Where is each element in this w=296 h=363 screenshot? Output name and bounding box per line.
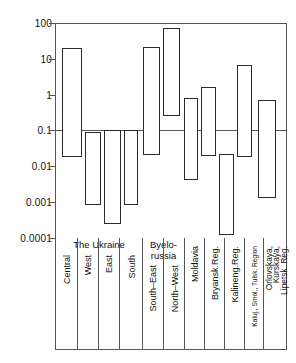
chart-root: 100 10 1 0.1 0.01 0.001 0.0001 The Ukrai… <box>0 0 296 363</box>
group-byelorussia: Byelo- russia South–East North–West <box>143 238 185 350</box>
bar-central[interactable] <box>62 48 82 157</box>
category-label-table: The Ukraine Central West East South Byel… <box>55 238 287 350</box>
bar-south[interactable] <box>124 130 138 205</box>
category-column-west[interactable]: West <box>78 238 99 350</box>
category-label-central: Central <box>62 255 72 284</box>
category-label-orlovskaya-line3: Lipetsk. Reg. <box>279 246 289 295</box>
category-label-kaluj: Kaluj., Smol., Tulsk. Region <box>251 246 258 327</box>
bar-west[interactable] <box>85 132 101 205</box>
category-label-kalineng: Kalineng.Reg. <box>230 246 240 303</box>
bar-south-east[interactable] <box>143 47 160 155</box>
category-label-moldavia: Moldavia <box>190 246 200 282</box>
bar-east[interactable] <box>104 130 121 224</box>
category-label-south: South <box>127 255 137 279</box>
category-label-south-east: South–East <box>148 265 158 312</box>
group-the-ukraine: The Ukraine Central West East South <box>56 238 143 350</box>
bar-bryansk[interactable] <box>201 87 216 156</box>
category-column-north-west[interactable]: North–West <box>164 238 185 350</box>
bar-kaluj[interactable] <box>237 65 252 157</box>
category-label-east: East <box>104 255 114 273</box>
bar-north-west[interactable] <box>163 28 180 116</box>
category-label-west: West <box>83 255 93 275</box>
category-label-bryansk: Bryansk.Reg. <box>210 246 220 300</box>
y-tick-label-0.0001: 0.0001 <box>20 232 52 243</box>
category-column-south[interactable]: South <box>120 238 143 350</box>
category-label-north-west: North–West <box>170 265 180 312</box>
group-orlovskaya[interactable]: Orlovskaya, Kurskaya, Lipetsk. Reg. <box>264 238 288 350</box>
group-kaluj[interactable]: Kaluj., Smol., Tulsk. Region <box>245 238 264 350</box>
bar-orlovskaya[interactable] <box>258 100 276 198</box>
y-axis-tick-labels: 100 10 1 0.1 0.01 0.001 0.0001 <box>0 0 52 363</box>
category-column-south-east[interactable]: South–East <box>143 238 164 350</box>
group-kalineng[interactable]: Kalineng.Reg. <box>225 238 245 350</box>
bar-kalineng[interactable] <box>219 154 234 235</box>
bar-moldavia[interactable] <box>184 98 198 180</box>
group-bryansk[interactable]: Bryansk.Reg. <box>205 238 225 350</box>
category-column-east[interactable]: East <box>99 238 120 350</box>
category-column-central[interactable]: Central <box>56 238 78 350</box>
group-moldavia[interactable]: Moldavia <box>185 238 205 350</box>
